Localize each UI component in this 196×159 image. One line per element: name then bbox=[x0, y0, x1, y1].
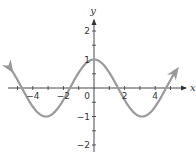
y-tick-label: 1 bbox=[84, 55, 90, 65]
origin-label: 0 bbox=[84, 91, 90, 101]
x-axis bbox=[8, 86, 186, 90]
x-tick-label: −2 bbox=[57, 91, 70, 101]
y-axis-label: y bbox=[89, 5, 96, 16]
y-tick-label: −2 bbox=[77, 140, 90, 150]
x-tick-label: 4 bbox=[152, 91, 158, 101]
x-tick-label: 2 bbox=[122, 91, 128, 101]
y-axis bbox=[92, 20, 96, 152]
y-tick-label: 2 bbox=[84, 26, 90, 36]
cosine-graph: −4−22421−1−20xy bbox=[0, 0, 196, 159]
x-tick-label: −4 bbox=[26, 91, 40, 101]
y-tick-label: −1 bbox=[77, 112, 90, 122]
x-axis-label: x bbox=[190, 82, 196, 93]
